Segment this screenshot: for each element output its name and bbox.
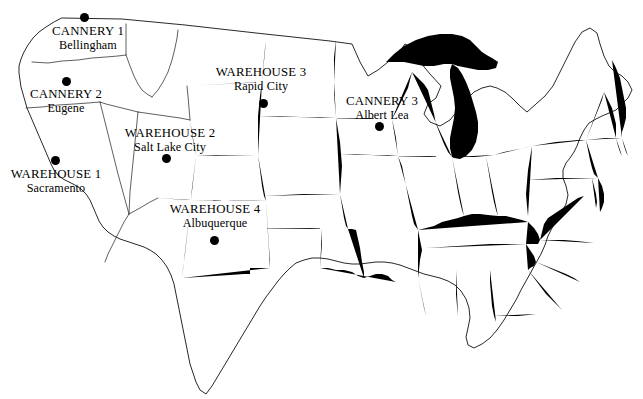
- marker-dot-cannery-1[interactable]: [80, 13, 89, 22]
- site-name-warehouse-4: WAREHOUSE 4: [170, 203, 261, 217]
- site-city-cannery-2: Eugene: [30, 102, 102, 115]
- site-name-cannery-2: CANNERY 2: [30, 88, 102, 102]
- label-warehouse-4: WAREHOUSE 4 Albuquerque: [170, 203, 261, 230]
- label-warehouse-2: WAREHOUSE 2 Salt Lake City: [125, 127, 216, 154]
- site-marker-layer: CANNERY 1 Bellingham CANNERY 2 Eugene CA…: [0, 0, 643, 399]
- site-city-warehouse-3: Rapid City: [216, 80, 307, 93]
- label-warehouse-1: WAREHOUSE 1 Sacramento: [11, 168, 102, 195]
- label-cannery-3: CANNERY 3 Albert Lea: [346, 95, 418, 122]
- marker-dot-warehouse-4[interactable]: [210, 236, 219, 245]
- site-name-cannery-3: CANNERY 3: [346, 95, 418, 109]
- site-name-warehouse-1: WAREHOUSE 1: [11, 168, 102, 182]
- site-name-warehouse-2: WAREHOUSE 2: [125, 127, 216, 141]
- label-cannery-1: CANNERY 1 Bellingham: [52, 25, 124, 52]
- marker-dot-cannery-3[interactable]: [375, 122, 384, 131]
- marker-dot-warehouse-3[interactable]: [259, 99, 268, 108]
- marker-dot-warehouse-1[interactable]: [51, 156, 60, 165]
- marker-dot-warehouse-2[interactable]: [162, 154, 171, 163]
- site-city-warehouse-4: Albuquerque: [170, 217, 261, 230]
- label-warehouse-3: WAREHOUSE 3 Rapid City: [216, 66, 307, 93]
- site-city-cannery-1: Bellingham: [52, 39, 124, 52]
- site-city-cannery-3: Albert Lea: [346, 109, 418, 122]
- marker-dot-cannery-2[interactable]: [62, 77, 71, 86]
- us-map-container: CANNERY 1 Bellingham CANNERY 2 Eugene CA…: [0, 0, 643, 399]
- site-city-warehouse-2: Salt Lake City: [125, 141, 216, 154]
- label-cannery-2: CANNERY 2 Eugene: [30, 88, 102, 115]
- site-city-warehouse-1: Sacramento: [11, 182, 102, 195]
- site-name-warehouse-3: WAREHOUSE 3: [216, 66, 307, 80]
- site-name-cannery-1: CANNERY 1: [52, 25, 124, 39]
